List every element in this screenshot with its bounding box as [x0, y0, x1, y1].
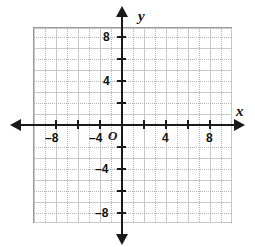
x-axis-left-arrow-icon	[10, 119, 21, 131]
x-tick-label--4: –4	[89, 131, 102, 145]
y-axis-label: y	[138, 8, 145, 25]
gridline-h-major	[34, 48, 231, 49]
origin-label: O	[108, 128, 117, 144]
gridline-h-major	[34, 92, 231, 93]
x-tick-label-8: 8	[206, 131, 213, 145]
gridline-h-minor	[34, 147, 231, 148]
gridline-h-major	[34, 114, 231, 115]
y-tick--8	[117, 212, 126, 214]
gridline-h-minor	[34, 59, 231, 60]
x-axis-right-arrow-icon	[234, 119, 245, 131]
gridline-h-minor	[34, 81, 231, 82]
x-tick-label--8: –8	[45, 131, 58, 145]
x-tick--8	[55, 120, 57, 129]
x-tick--4	[99, 120, 101, 129]
y-tick-2	[117, 102, 126, 104]
y-axis-line	[121, 16, 123, 235]
gridline-h-major	[34, 222, 231, 223]
coordinate-plane-figure: –8 –4 4 8 8 4 –4 –8 O y x	[0, 0, 255, 247]
y-tick--6	[117, 190, 126, 192]
gridline-h-major	[34, 180, 231, 181]
x-axis-line	[20, 124, 235, 126]
y-tick-label--8: –8	[95, 206, 108, 220]
gridline-h-minor	[34, 169, 231, 170]
gridline-h-major	[34, 70, 231, 71]
y-tick-8	[117, 36, 126, 38]
gridline-h-major	[34, 28, 231, 29]
x-tick-2	[143, 120, 145, 129]
gridline-h-minor	[34, 213, 231, 214]
gridline-h-minor	[34, 191, 231, 192]
y-axis-up-arrow-icon	[116, 6, 128, 17]
x-tick-6	[187, 120, 189, 129]
gridline-h-major	[34, 158, 231, 159]
gridline-h-minor	[34, 103, 231, 104]
y-tick--4	[117, 168, 126, 170]
y-tick-label-4: 4	[103, 74, 110, 88]
x-tick-label-4: 4	[162, 131, 169, 145]
gridline-h-major	[34, 202, 231, 203]
y-axis-down-arrow-icon	[116, 234, 128, 245]
x-tick-4	[165, 120, 167, 129]
y-tick-label--4: –4	[95, 162, 108, 176]
y-tick-4	[117, 80, 126, 82]
x-tick--6	[77, 120, 79, 129]
y-tick-label-8: 8	[103, 30, 110, 44]
y-tick-6	[117, 58, 126, 60]
gridline-h-minor	[34, 37, 231, 38]
x-tick-8	[209, 120, 211, 129]
x-axis-label: x	[236, 103, 244, 120]
y-tick--2	[117, 146, 126, 148]
